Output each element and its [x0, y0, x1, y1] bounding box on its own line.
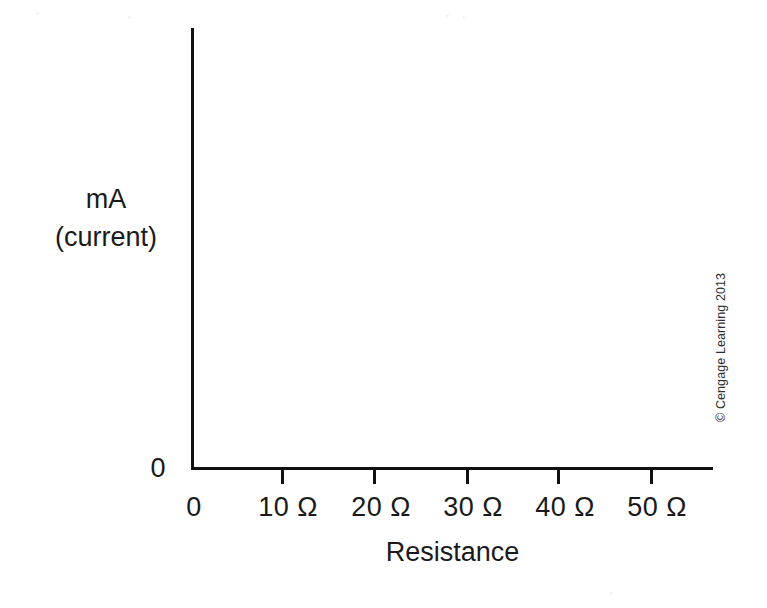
y-axis-title-line-1: mA [20, 180, 192, 218]
figure-canvas: 0 0 10 Ω 20 Ω 30 Ω 40 Ω 50 Ω mA (current… [0, 0, 767, 608]
x-axis-tick-40 [557, 470, 560, 484]
x-axis-title: Resistance [192, 536, 713, 568]
y-axis-title-line-2: (current) [20, 218, 192, 256]
x-axis-tick-20 [373, 470, 376, 484]
scan-speckle [36, 12, 39, 15]
y-tick-label-0: 0 [143, 453, 173, 483]
scan-speckle [610, 592, 613, 595]
x-axis-tick-10 [281, 470, 284, 484]
x-axis-tick-50 [650, 470, 653, 484]
copyright-credit: © Cengage Learning 2013 [714, 252, 728, 422]
scan-speckle [446, 14, 449, 17]
x-axis-tick-30 [466, 470, 469, 484]
x-tick-label-50: 50 Ω [597, 492, 717, 522]
scan-speckle [462, 16, 465, 19]
scan-speckle [128, 16, 131, 19]
x-axis-line [191, 467, 713, 470]
y-axis-title: mA (current) [20, 180, 192, 256]
